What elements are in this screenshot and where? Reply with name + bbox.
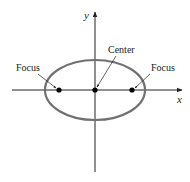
center-point <box>92 87 97 92</box>
label-x-axis: x <box>177 94 182 105</box>
ellipse-diagram <box>0 0 190 182</box>
label-focus-left: Focus <box>16 63 40 73</box>
focus-right-pointer <box>135 74 150 88</box>
label-y-axis: y <box>84 10 89 21</box>
label-focus-right: Focus <box>151 63 175 73</box>
focus-left-point <box>56 87 61 92</box>
focus-right-point <box>129 87 134 92</box>
label-center: Center <box>108 45 135 55</box>
focus-left-pointer <box>38 74 56 88</box>
